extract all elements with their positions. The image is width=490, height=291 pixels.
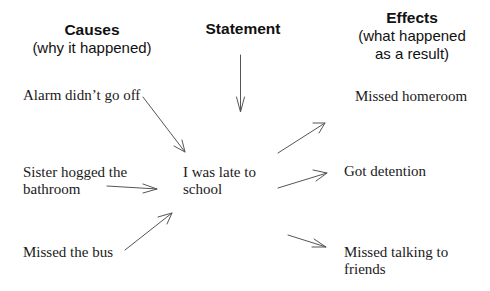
homeroom-arrow-icon xyxy=(278,123,325,153)
statement-down-arrow-icon xyxy=(237,55,245,112)
friends-arrow-icon xyxy=(288,235,326,247)
arrows-layer xyxy=(0,0,490,291)
alarm-arrow-icon xyxy=(143,97,185,152)
cause-effect-diagram: Causes (why it happened) Statement Effec… xyxy=(0,0,490,291)
detention-arrow-icon xyxy=(278,170,327,188)
bus-arrow-icon xyxy=(125,213,172,250)
sister-arrow-icon xyxy=(107,184,157,193)
